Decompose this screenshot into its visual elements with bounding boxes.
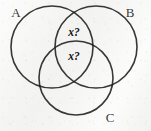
- circle-set-a: [11, 6, 93, 88]
- set-label-c: C: [106, 110, 115, 125]
- venn-diagram-figure: A B C x? x?: [0, 0, 151, 131]
- region-label-a-intersect-b-intersect-c: x?: [67, 50, 80, 62]
- set-label-b: B: [126, 5, 135, 20]
- venn-diagram-canvas: A B C x? x?: [0, 0, 151, 131]
- set-label-a: A: [11, 5, 21, 20]
- region-label-a-intersect-b: x?: [67, 26, 80, 38]
